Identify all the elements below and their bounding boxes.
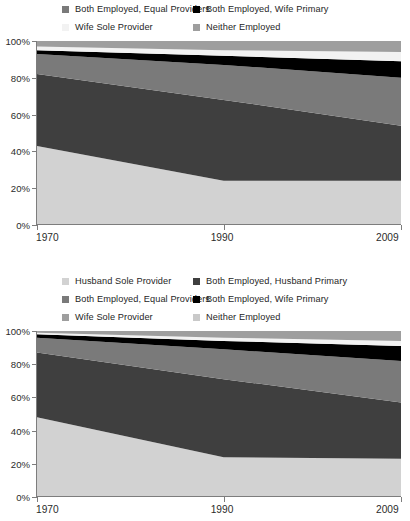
x-axis-line bbox=[36, 496, 401, 497]
legend-swatch-icon bbox=[193, 314, 200, 321]
legend-item-wife-sole-provider: Wife Sole Provider bbox=[0, 22, 193, 33]
legend-swatch-icon bbox=[193, 278, 200, 285]
x-axis-tick-mark bbox=[37, 497, 38, 502]
legend-swatch-icon bbox=[193, 6, 200, 13]
legend-item-both-employed-equal-providers: Both Employed, Equal Providers bbox=[0, 4, 193, 15]
y-axis-tick-label: 20% bbox=[0, 458, 36, 469]
y-axis-tick-mark bbox=[32, 151, 37, 152]
stacked-area-canvas bbox=[37, 331, 401, 497]
x-axis-tick-mark bbox=[224, 225, 225, 230]
y-axis-tick-label: 80% bbox=[0, 72, 36, 83]
y-axis-tick-mark bbox=[32, 115, 37, 116]
legend-item-label: Both Employed, Equal Providers bbox=[75, 4, 210, 15]
legend-item-label: Wife Sole Provider bbox=[75, 22, 153, 33]
y-axis-tick-mark bbox=[32, 331, 37, 332]
x-axis-line bbox=[36, 224, 401, 225]
x-axis-tick-label: 2009 bbox=[376, 504, 399, 515]
legend-row: Both Employed, Equal Providers Both Empl… bbox=[0, 0, 410, 18]
y-axis-tick-mark bbox=[32, 464, 37, 465]
x-axis-tick-label: 1990 bbox=[211, 504, 234, 515]
legend-item-neither-employed: Neither Employed bbox=[193, 312, 410, 323]
y-axis-tick-label: 100% bbox=[0, 36, 36, 47]
legend-item-neither-employed: Neither Employed bbox=[193, 22, 410, 33]
legend-item-both-employed-equal-providers: Both Employed, Equal Providers bbox=[0, 294, 193, 305]
stacked-area-canvas bbox=[37, 41, 401, 225]
legend-item-wife-sole-provider: Wife Sole Provider bbox=[0, 312, 193, 323]
legend-figure-2: Husband Sole Provider Both Employed, Hus… bbox=[0, 272, 410, 326]
legend-swatch-icon bbox=[62, 6, 69, 13]
x-axis-tick-label: 1970 bbox=[36, 504, 59, 515]
x-axis-tick-label: 2009 bbox=[376, 232, 399, 243]
legend-item-label: Husband Sole Provider bbox=[75, 276, 171, 287]
area-series-group bbox=[37, 331, 401, 497]
legend-swatch-icon bbox=[62, 314, 69, 321]
legend-swatch-icon bbox=[62, 296, 69, 303]
y-axis-line bbox=[36, 331, 37, 497]
y-axis-tick-label: 20% bbox=[0, 183, 36, 194]
legend-row: Wife Sole Provider Neither Employed bbox=[0, 308, 410, 326]
legend-item-label: Both Employed, Wife Primary bbox=[206, 4, 328, 15]
area-series-group bbox=[37, 41, 401, 225]
x-axis-tick-mark bbox=[224, 497, 225, 502]
y-axis-tick-label: 40% bbox=[0, 425, 36, 436]
legend-swatch-icon bbox=[62, 278, 69, 285]
y-axis-tick-label: 80% bbox=[0, 359, 36, 370]
stacked-area-figure-2: Husband Sole Provider Both Employed, Hus… bbox=[0, 272, 410, 521]
plot-area-figure-2: 0%20%40%60%80%100%197019902009 bbox=[0, 326, 410, 521]
y-axis-tick-label: 60% bbox=[0, 109, 36, 120]
y-axis-tick-label: 60% bbox=[0, 392, 36, 403]
legend-row: Both Employed, Equal Providers Both Empl… bbox=[0, 290, 410, 308]
legend-row: Wife Sole Provider Neither Employed bbox=[0, 18, 410, 36]
legend-item-both-employed-wife-primary: Both Employed, Wife Primary bbox=[193, 294, 410, 305]
legend-figure-1: Husband Sole Provider Both Employed, Hus… bbox=[0, 0, 410, 36]
legend-item-label: Both Employed, Wife Primary bbox=[206, 294, 328, 305]
y-axis-tick-label: 100% bbox=[0, 326, 36, 337]
plot-area-figure-1: 0%20%40%60%80%100%197019902009 bbox=[0, 36, 410, 252]
x-axis-tick-mark bbox=[401, 497, 402, 502]
y-axis-tick-mark bbox=[32, 41, 37, 42]
y-axis-tick-mark bbox=[32, 78, 37, 79]
y-axis-tick-mark bbox=[32, 397, 37, 398]
legend-item-label: Both Employed, Equal Providers bbox=[75, 294, 210, 305]
stacked-area-figure-1: Husband Sole Provider Both Employed, Hus… bbox=[0, 0, 410, 254]
legend-item-husband-sole-provider: Husband Sole Provider bbox=[0, 276, 193, 287]
legend-item-both-employed-wife-primary: Both Employed, Wife Primary bbox=[193, 4, 410, 15]
y-axis-line bbox=[36, 41, 37, 225]
y-axis-tick-label: 0% bbox=[0, 492, 36, 503]
y-axis-tick-label: 0% bbox=[0, 220, 36, 231]
legend-item-both-employed-husband-primary: Both Employed, Husband Primary bbox=[193, 276, 410, 287]
legend-swatch-icon bbox=[62, 24, 69, 31]
legend-item-label: Neither Employed bbox=[206, 312, 281, 323]
y-axis-tick-mark bbox=[32, 431, 37, 432]
legend-swatch-icon bbox=[193, 296, 200, 303]
x-axis-tick-mark bbox=[401, 225, 402, 230]
x-axis-tick-label: 1970 bbox=[36, 232, 59, 243]
legend-item-label: Neither Employed bbox=[206, 22, 281, 33]
legend-swatch-icon bbox=[193, 24, 200, 31]
y-axis-tick-mark bbox=[32, 364, 37, 365]
legend-item-label: Both Employed, Husband Primary bbox=[206, 276, 347, 287]
legend-item-label: Wife Sole Provider bbox=[75, 312, 153, 323]
y-axis-tick-mark bbox=[32, 188, 37, 189]
x-axis-tick-mark bbox=[37, 225, 38, 230]
y-axis-tick-label: 40% bbox=[0, 146, 36, 157]
legend-row: Husband Sole Provider Both Employed, Hus… bbox=[0, 272, 410, 290]
x-axis-tick-label: 1990 bbox=[211, 232, 234, 243]
